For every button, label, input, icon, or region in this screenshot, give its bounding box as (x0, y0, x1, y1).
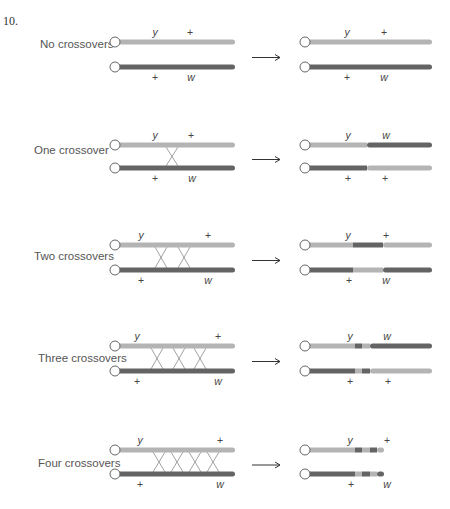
gene-label: w (382, 129, 391, 141)
centromere-icon (110, 469, 120, 479)
gene-label: + (205, 229, 211, 241)
gene-label: + (382, 172, 388, 184)
centromere-icon (300, 240, 310, 250)
centromere-icon (300, 366, 310, 376)
result-bottom-chromosome-segment (362, 369, 370, 374)
gene-label: + (344, 71, 350, 83)
gene-label: w (216, 478, 225, 490)
result-bottom-chromosome-segment (307, 166, 367, 171)
gene-label: + (348, 478, 354, 490)
gene-label: y (346, 330, 353, 342)
gene-label: w (380, 71, 389, 83)
gene-label: + (152, 71, 158, 83)
centromere-icon (110, 140, 120, 150)
gene-label: + (152, 172, 158, 184)
parental-top-chromosome-segment (117, 143, 235, 148)
result-bottom-chromosome-segment (355, 369, 362, 374)
result-top-chromosome-segment (383, 243, 432, 248)
result-bottom-chromosome-segment (307, 472, 355, 477)
centromere-icon (110, 265, 120, 275)
result-bottom-chromosome-segment (383, 268, 432, 273)
result-bottom-chromosome-segment (355, 472, 362, 477)
result-top-chromosome-segment (307, 40, 432, 45)
centromere-icon (110, 366, 120, 376)
gene-label: y (151, 129, 158, 141)
result-top-chromosome-segment (362, 344, 370, 349)
gene-label: w (383, 330, 392, 342)
parental-top-chromosome-segment (117, 344, 235, 349)
result-top-chromosome-segment (367, 143, 432, 148)
gene-label: + (215, 330, 221, 342)
centromere-icon (300, 469, 310, 479)
gene-label: w (204, 274, 213, 286)
result-bottom-chromosome-segment (307, 65, 432, 70)
gene-label: + (345, 172, 351, 184)
gene-label: + (217, 434, 223, 446)
gene-label: + (347, 375, 353, 387)
gene-label: + (346, 274, 352, 286)
gene-label: + (381, 26, 387, 38)
gene-label: + (138, 274, 144, 286)
gene-label: + (385, 375, 391, 387)
result-bottom-chromosome-segment (307, 268, 353, 273)
result-bottom-chromosome-segment (370, 472, 377, 477)
result-bottom-chromosome-segment (367, 166, 432, 171)
centromere-icon (110, 62, 120, 72)
centromere-icon (300, 37, 310, 47)
result-bottom-chromosome-segment (362, 472, 370, 477)
centromere-icon (110, 341, 120, 351)
centromere-icon (110, 163, 120, 173)
gene-label: y (151, 26, 158, 38)
gene-label: + (137, 478, 143, 490)
gene-label: w (383, 478, 392, 490)
centromere-icon (110, 240, 120, 250)
result-top-chromosome-segment (307, 143, 367, 148)
parental-bottom-chromosome-segment (117, 166, 235, 171)
gene-label: + (134, 375, 140, 387)
result-top-chromosome-segment (370, 448, 377, 453)
centromere-icon (110, 445, 120, 455)
centromere-icon (300, 62, 310, 72)
result-top-chromosome-segment (370, 344, 432, 349)
result-top-chromosome-segment (353, 243, 383, 248)
gene-label: y (343, 26, 350, 38)
result-bottom-chromosome-segment (377, 472, 384, 477)
gene-label: y (133, 330, 140, 342)
gene-label: y (136, 434, 143, 446)
result-top-chromosome-segment (307, 243, 353, 248)
gene-label: y (346, 434, 353, 446)
result-top-chromosome-segment (377, 448, 384, 453)
result-bottom-chromosome-segment (370, 369, 432, 374)
gene-label: + (187, 26, 193, 38)
centromere-icon (110, 37, 120, 47)
centromere-icon (300, 445, 310, 455)
gene-label: w (214, 375, 223, 387)
parental-bottom-chromosome-segment (117, 65, 235, 70)
crossover-diagram: y++wy++wy++wyw++y++wy++wy++wyw++y++wy++w (0, 0, 450, 509)
result-top-chromosome-segment (355, 448, 362, 453)
result-bottom-chromosome-segment (353, 268, 383, 273)
result-top-chromosome-segment (307, 344, 355, 349)
gene-label: y (344, 129, 351, 141)
gene-label: + (188, 129, 194, 141)
result-bottom-chromosome-segment (307, 369, 355, 374)
gene-label: + (383, 229, 389, 241)
gene-label: + (384, 434, 390, 446)
centromere-icon (300, 140, 310, 150)
result-top-chromosome-segment (307, 448, 355, 453)
parental-top-chromosome-segment (117, 40, 235, 45)
parental-top-chromosome-segment (117, 448, 235, 453)
gene-label: w (382, 274, 391, 286)
result-top-chromosome-segment (362, 448, 370, 453)
parental-bottom-chromosome-segment (117, 268, 235, 273)
gene-label: w (188, 172, 197, 184)
parental-bottom-chromosome-segment (117, 369, 235, 374)
gene-label: y (344, 229, 351, 241)
gene-label: y (137, 229, 144, 241)
result-top-chromosome-segment (355, 344, 362, 349)
centromere-icon (300, 341, 310, 351)
parental-bottom-chromosome-segment (117, 472, 235, 477)
centromere-icon (300, 163, 310, 173)
parental-top-chromosome-segment (117, 243, 235, 248)
gene-label: w (187, 71, 196, 83)
